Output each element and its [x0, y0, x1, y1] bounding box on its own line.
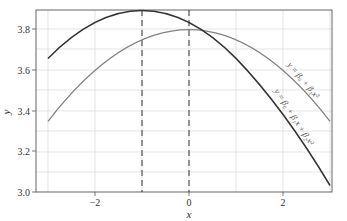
annotation-light-curve: y = β₀ + β₁x² [285, 59, 322, 101]
x-axis-label: x [186, 208, 192, 220]
chart: −2 0 2 3.0 3.2 3.4 3.6 3.8 x y y = β₀ + … [0, 0, 347, 221]
y-tick-label: 3.8 [18, 24, 31, 35]
y-axis-label: y [0, 109, 12, 115]
x-tick-label: 2 [281, 197, 286, 208]
y-tick-label: 3.6 [18, 65, 31, 76]
x-tick-label: −2 [90, 197, 101, 208]
y-tick-label: 3.4 [18, 106, 31, 117]
y-tick-label: 3.0 [18, 187, 31, 198]
ticks [32, 29, 283, 196]
x-tick-label: 0 [187, 197, 192, 208]
y-tick-label: 3.2 [18, 146, 31, 157]
